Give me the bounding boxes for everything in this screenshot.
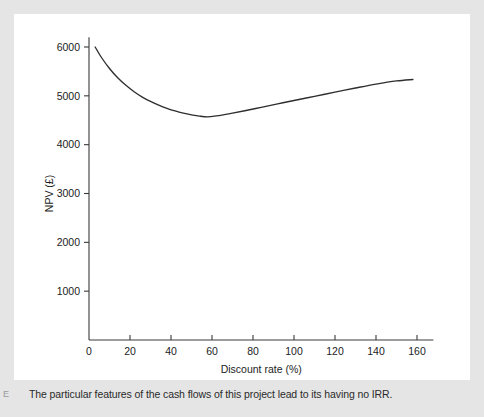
chart-panel xyxy=(14,14,470,380)
figure-root: 1000200030004000500060000204060801001201… xyxy=(0,0,484,417)
margin-mark: E xyxy=(3,389,10,400)
figure-caption: The particular features of the cash flow… xyxy=(29,388,469,400)
